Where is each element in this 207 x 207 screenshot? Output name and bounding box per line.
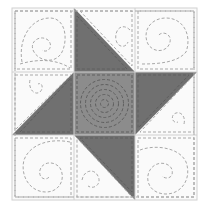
center-square xyxy=(74,72,135,135)
quilt-block-diagram xyxy=(0,0,207,207)
